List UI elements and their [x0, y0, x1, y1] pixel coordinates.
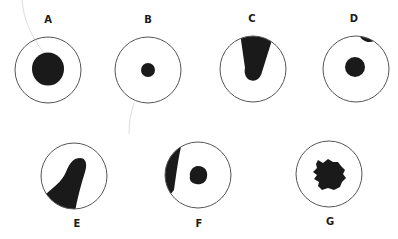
edge-inclusion [40, 158, 86, 212]
panel-label-b: B [144, 15, 152, 25]
irregular-mass [313, 159, 346, 190]
panel-label-e: E [74, 219, 81, 229]
panel-e [40, 143, 107, 212]
panel-label-a: A [44, 15, 52, 25]
panel-d [323, 30, 389, 102]
panel-f [162, 142, 231, 208]
fiber-artifact [129, 103, 134, 134]
panel-a [15, 37, 81, 103]
panel-label-d: D [350, 14, 358, 24]
panel-c [220, 30, 286, 102]
panel-label-c: C [248, 14, 255, 24]
nucleus [32, 53, 64, 86]
nucleus [190, 166, 207, 184]
panel-b [115, 37, 181, 103]
panel-label-f: F [196, 219, 203, 229]
cell-diagram-figure [0, 0, 398, 239]
panel-label-g: G [326, 217, 334, 227]
fiber-artifact [22, 0, 46, 56]
nucleus [141, 63, 155, 77]
panel-g [296, 141, 362, 207]
nucleus [345, 57, 365, 77]
